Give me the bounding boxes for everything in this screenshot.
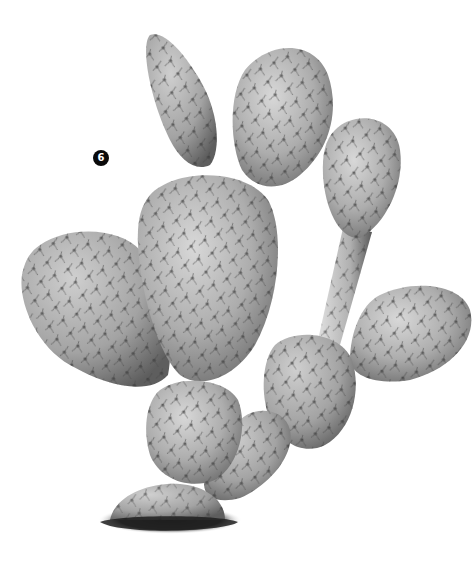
right-lower-pad xyxy=(350,286,471,382)
cactus-illustration xyxy=(0,0,473,566)
cactus-illustration-canvas: 6 xyxy=(0,0,473,566)
top-left-narrow-pad xyxy=(146,34,217,167)
figure-marker-badge: 6 xyxy=(93,150,109,166)
right-upper-pad xyxy=(323,118,401,238)
top-right-pad xyxy=(233,48,333,186)
lower-center-pad xyxy=(146,381,242,484)
